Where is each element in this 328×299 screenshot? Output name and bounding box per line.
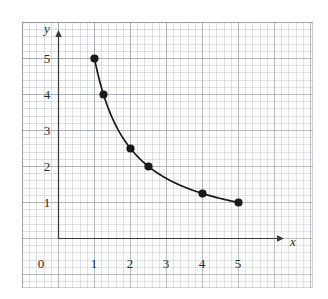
x-axis (58, 235, 284, 242)
data-point-5 (234, 198, 242, 206)
data-point-markers (90, 54, 242, 206)
data-point-4 (198, 189, 206, 197)
graph-figure: 0 1 2 3 4 5 1 2 3 4 5 x y (0, 0, 328, 299)
y-tick-label-4: 4 (39, 88, 55, 101)
x-tick-label-3: 3 (158, 257, 174, 270)
x-axis-label: x (290, 235, 296, 248)
data-point-1 (99, 90, 107, 98)
y-tick-label-1: 1 (39, 196, 55, 209)
x-tick-label-2: 2 (122, 257, 138, 270)
x-tick-label-5: 5 (230, 257, 246, 270)
y-axis-arrowhead (55, 30, 62, 37)
y-tick-label-3: 3 (39, 124, 55, 137)
y-axis-label: y (44, 22, 50, 35)
x-axis-arrowhead (277, 235, 284, 242)
data-point-2 (126, 144, 134, 152)
y-tick-label-5: 5 (39, 52, 55, 65)
x-tick-label-4: 4 (194, 257, 210, 270)
plot-svg (0, 0, 328, 299)
data-point-3 (144, 162, 152, 170)
x-tick-label-0: 0 (33, 257, 49, 270)
data-curve (95, 59, 239, 203)
x-tick-label-1: 1 (86, 257, 102, 270)
y-tick-label-2: 2 (39, 160, 55, 173)
y-axis (55, 30, 62, 238)
data-point-0 (90, 54, 98, 62)
